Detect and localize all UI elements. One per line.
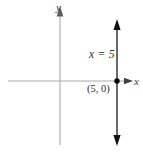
point-marker-5-0	[114, 78, 119, 83]
point-coordinate-label: (5, 0)	[87, 84, 110, 95]
y-axis-label: y	[56, 2, 61, 13]
x-axis-arrowhead-icon	[124, 78, 133, 84]
line-arrowhead-up-icon	[113, 19, 120, 30]
coordinate-plane-figure: y x x = 5 (5, 0)	[0, 0, 143, 152]
line-arrowhead-down-icon	[113, 135, 120, 146]
graph-canvas	[0, 0, 143, 152]
line-equation-label: x = 5	[89, 49, 115, 61]
x-axis-label: x	[134, 76, 139, 87]
